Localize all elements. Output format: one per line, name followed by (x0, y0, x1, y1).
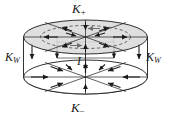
label-kw-right-subscript: W (154, 56, 161, 65)
label-k-plus: K+ (72, 2, 86, 17)
label-kw-left-symbol: K (5, 50, 13, 64)
label-k-minus-subscript: − (80, 106, 85, 116)
label-kw-left-subscript: W (13, 56, 20, 65)
label-axis-current: I (77, 55, 81, 67)
label-kw-right: KW (146, 51, 161, 65)
label-kw-left: KW (5, 51, 20, 65)
label-axis-current-symbol: I (77, 54, 81, 68)
figure-container: K+ K− KW KW I (0, 0, 171, 119)
label-k-plus-symbol: K (72, 1, 81, 16)
label-kw-right-symbol: K (146, 50, 154, 64)
label-k-plus-subscript: + (81, 7, 86, 17)
label-k-minus: K− (71, 101, 85, 116)
label-k-minus-symbol: K (71, 100, 80, 115)
